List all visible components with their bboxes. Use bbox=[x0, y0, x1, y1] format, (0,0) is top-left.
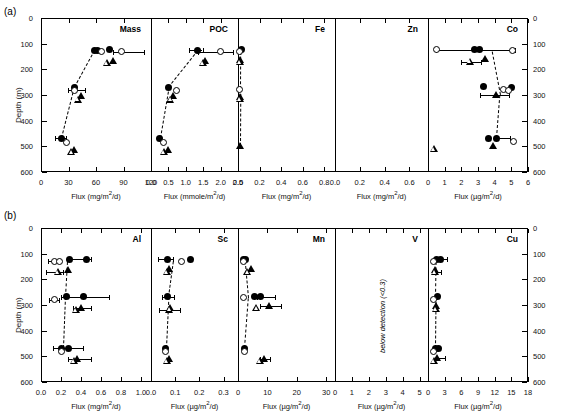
x-tick-label: 2 bbox=[367, 388, 371, 397]
panel-label-sc: Sc bbox=[218, 234, 228, 244]
x-tick-top bbox=[151, 19, 152, 23]
y-tick-label: 0 bbox=[533, 224, 537, 233]
x-tick-label: 0.4 bbox=[379, 178, 389, 187]
x-tick bbox=[445, 377, 446, 382]
marker-open-circle bbox=[162, 348, 169, 355]
x-tick-top bbox=[238, 19, 239, 23]
error-bar-cap bbox=[68, 357, 69, 362]
x-tick-top bbox=[297, 229, 298, 233]
y-tick-label: 400 bbox=[0, 326, 33, 335]
x-tick bbox=[461, 377, 462, 382]
error-bar-cap bbox=[144, 50, 145, 55]
x-tick bbox=[238, 167, 239, 172]
marker-open-triangle bbox=[72, 306, 80, 313]
y-tick-right bbox=[522, 172, 527, 173]
x-tick-label: 0.1 bbox=[170, 388, 180, 397]
x-tick bbox=[151, 377, 152, 382]
x-tick-top bbox=[478, 19, 479, 23]
y-tick-label: 400 bbox=[533, 326, 546, 335]
error-bar-cap bbox=[275, 295, 276, 300]
x-tick-top bbox=[461, 229, 462, 233]
x-axis-title: Flux (µg/m2/d) bbox=[454, 400, 502, 411]
y-tick-label: 200 bbox=[533, 275, 546, 284]
error-bar-cap bbox=[159, 308, 160, 313]
panel-label-co: Co bbox=[507, 24, 518, 34]
x-tick-top bbox=[41, 19, 42, 23]
y-tick-label: 100 bbox=[0, 249, 33, 258]
y-tick-label: 500 bbox=[533, 352, 546, 361]
x-tick bbox=[81, 377, 82, 382]
x-tick bbox=[175, 377, 176, 382]
x-tick-label: 90 bbox=[119, 178, 127, 187]
x-tick bbox=[409, 167, 410, 172]
marker-open-triangle bbox=[430, 145, 438, 152]
x-tick bbox=[528, 167, 529, 172]
x-tick-label: 2.0 bbox=[215, 178, 225, 187]
marker-open-triangle bbox=[431, 268, 439, 275]
marker-filled-circle bbox=[66, 256, 73, 263]
x-tick bbox=[403, 377, 404, 382]
x-tick bbox=[281, 167, 282, 172]
x-tick-label: 0 bbox=[426, 388, 430, 397]
x-tick-label: 3 bbox=[384, 388, 388, 397]
x-tick-top bbox=[445, 229, 446, 233]
marker-open-triangle bbox=[236, 95, 244, 102]
x-tick-top bbox=[267, 229, 268, 233]
error-bar-cap bbox=[55, 136, 56, 141]
x-tick bbox=[528, 377, 529, 382]
x-tick-label: 1 bbox=[350, 388, 354, 397]
x-tick bbox=[141, 377, 142, 382]
x-tick bbox=[101, 377, 102, 382]
panel-co bbox=[428, 18, 528, 172]
y-tick-label: 500 bbox=[533, 142, 546, 151]
error-bar-cap bbox=[91, 257, 92, 262]
y-tick-label: 300 bbox=[0, 301, 33, 310]
marker-open-triangle bbox=[74, 96, 82, 103]
x-tick-top bbox=[203, 19, 204, 23]
x-tick-label: 9 bbox=[476, 388, 480, 397]
x-tick-label: 30 bbox=[64, 178, 72, 187]
marker-open-triangle bbox=[70, 357, 78, 364]
marker-open-triangle bbox=[163, 357, 171, 364]
marker-filled-circle bbox=[65, 345, 72, 352]
below-detection-annotation: below detection (<0.3) bbox=[378, 279, 387, 353]
x-tick-label: 0.0 bbox=[233, 178, 243, 187]
error-bar-cap bbox=[441, 270, 442, 275]
x-tick-top bbox=[175, 229, 176, 233]
x-tick bbox=[335, 167, 336, 172]
error-bar-cap bbox=[91, 357, 92, 362]
x-tick-label: 6 bbox=[459, 388, 463, 397]
error-bar-cap bbox=[233, 50, 234, 55]
x-tick bbox=[151, 167, 152, 172]
x-tick-label: 0.2 bbox=[355, 178, 365, 187]
x-tick-label: 1 bbox=[443, 178, 447, 187]
x-tick-label: 0.8 bbox=[116, 388, 126, 397]
x-tick-label: 0.6 bbox=[404, 178, 414, 187]
x-axis-title: Flux (mg/m2/d) bbox=[262, 190, 312, 201]
x-tick-label: 2 bbox=[459, 178, 463, 187]
x-tick-top bbox=[511, 19, 512, 23]
x-tick-top bbox=[69, 19, 70, 23]
marker-open-triangle bbox=[252, 304, 260, 311]
x-tick bbox=[41, 167, 42, 172]
marker-open-triangle bbox=[163, 268, 171, 275]
x-tick bbox=[124, 167, 125, 172]
marker-open-circle bbox=[160, 139, 167, 146]
x-axis-title: Flux (mg/m2/d) bbox=[71, 190, 121, 201]
x-tick bbox=[221, 167, 222, 172]
x-tick bbox=[326, 377, 327, 382]
x-tick bbox=[428, 377, 429, 382]
y-tick-label: 100 bbox=[533, 249, 546, 258]
error-bar-cap bbox=[173, 257, 174, 262]
x-tick-top bbox=[409, 19, 410, 23]
marker-filled-circle bbox=[493, 135, 500, 142]
marker-filled-circle bbox=[80, 293, 87, 300]
marker-filled-circle bbox=[257, 293, 264, 300]
y-tick-label: 500 bbox=[0, 352, 33, 361]
error-bar-cap bbox=[281, 304, 282, 309]
x-tick-label: 0.0 bbox=[36, 388, 46, 397]
error-bar-cap bbox=[509, 93, 510, 98]
y-tick-label: 300 bbox=[0, 91, 33, 100]
error-bar-cap bbox=[46, 270, 47, 275]
error-bar-cap bbox=[480, 93, 481, 98]
